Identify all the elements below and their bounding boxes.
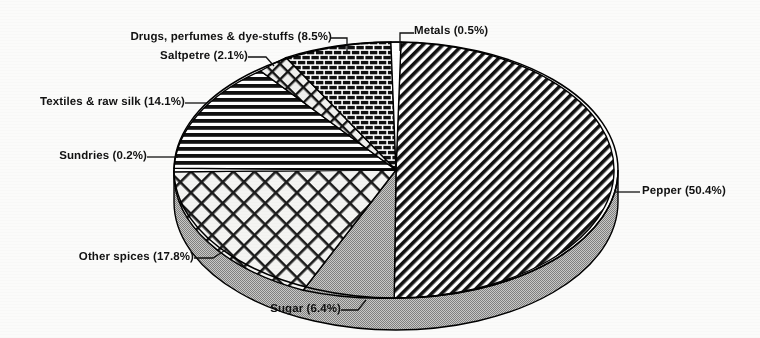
slice-label-other-spices: Other spices (17.8%) bbox=[10, 251, 194, 264]
pie-chart-figure: Drugs, perfumes & dye-stuffs (8.5%) Salt… bbox=[0, 0, 760, 338]
slice-label-saltpetre: Saltpetre (2.1%) bbox=[60, 50, 248, 63]
slice-label-metals: Metals (0.5%) bbox=[414, 25, 544, 38]
pie-slices bbox=[174, 42, 614, 298]
slice-label-sugar: Sugar (6.4%) bbox=[210, 303, 341, 316]
slice-label-pepper: Pepper (50.4%) bbox=[642, 185, 760, 198]
slice-label-sundries: Sundries (0.2%) bbox=[10, 150, 147, 163]
slice-label-textiles: Textiles & raw silk (14.1%) bbox=[10, 96, 185, 109]
slice-label-drugs: Drugs, perfumes & dye-stuffs (8.5%) bbox=[86, 31, 332, 44]
